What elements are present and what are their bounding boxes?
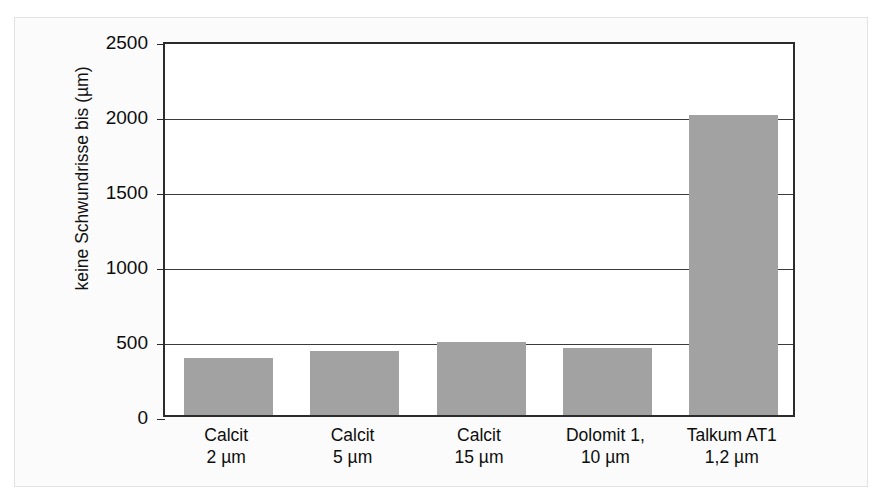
x-tick-label-line2: 10 µm xyxy=(542,446,668,468)
bar xyxy=(689,115,778,415)
y-tick-label: 2500 xyxy=(86,33,148,52)
figure-canvas: keine Schwundrisse bis (µm) 250020001500… xyxy=(0,0,884,500)
x-tick-label: Calcit2 µm xyxy=(163,424,289,469)
y-tick-label: 500 xyxy=(86,333,148,352)
x-tick-label-line2: 1,2 µm xyxy=(669,446,795,468)
y-tick-label: 1000 xyxy=(86,258,148,277)
x-tick-label-line1: Calcit xyxy=(416,424,542,446)
y-axis-tick-labels: 25002000150010005000 xyxy=(86,0,148,500)
bar xyxy=(563,348,652,416)
x-tick-label: Dolomit 1,10 µm xyxy=(542,424,668,469)
plot-inner xyxy=(165,44,793,415)
x-tick-label-line1: Talkum AT1 xyxy=(669,424,795,446)
y-tick-label: 2000 xyxy=(86,108,148,127)
x-tick-label-line2: 5 µm xyxy=(289,446,415,468)
bar xyxy=(184,358,273,415)
y-tick-mark xyxy=(157,344,165,345)
y-tick-label: 1500 xyxy=(86,183,148,202)
x-axis-tick-labels: Calcit2 µmCalcit5 µmCalcit15 µmDolomit 1… xyxy=(163,424,795,484)
bar xyxy=(437,342,526,416)
y-tick-mark xyxy=(157,419,165,420)
y-tick-mark xyxy=(157,119,165,120)
x-tick-label-line1: Calcit xyxy=(163,424,289,446)
x-tick-label: Calcit15 µm xyxy=(416,424,542,469)
y-tick-mark xyxy=(157,194,165,195)
y-tick-label: 0 xyxy=(86,408,148,427)
y-tick-mark xyxy=(157,44,165,45)
x-tick-label-line2: 2 µm xyxy=(163,446,289,468)
x-tick-label-line2: 15 µm xyxy=(416,446,542,468)
x-tick-label-line1: Dolomit 1, xyxy=(542,424,668,446)
plot-area xyxy=(163,42,795,417)
x-tick-label: Calcit5 µm xyxy=(289,424,415,469)
x-tick-label: Talkum AT11,2 µm xyxy=(669,424,795,469)
bar xyxy=(310,351,399,416)
y-tick-mark xyxy=(157,269,165,270)
x-tick-label-line1: Calcit xyxy=(289,424,415,446)
